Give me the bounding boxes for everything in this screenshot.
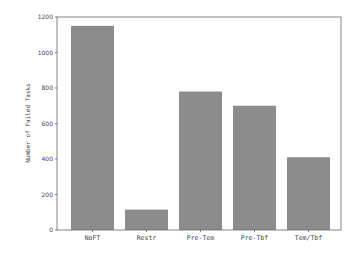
x-tick-label: Pre-Tem <box>187 234 214 242</box>
x-tick-label: Restr <box>137 234 157 242</box>
bar-pre-tem <box>179 92 222 230</box>
x-tick-label: Tem/Tbf <box>295 234 322 242</box>
bar-tem-tbf <box>287 157 330 230</box>
bar-restr <box>125 210 168 230</box>
x-tick-label: Pre-Tbf <box>241 234 268 242</box>
y-axis-label: Number of Failed Tasks <box>24 83 31 162</box>
y-tick-label: 1000 <box>38 49 53 56</box>
y-tick-label: 800 <box>42 84 54 91</box>
y-tick-label: 600 <box>42 120 54 127</box>
x-axis-ticks: NoFTRestrPre-TemPre-TbfTem/Tbf <box>85 230 323 242</box>
x-tick-label: NoFT <box>85 234 101 242</box>
bar-pre-tbf <box>233 106 276 230</box>
bars <box>71 26 330 230</box>
y-tick-label: 400 <box>42 155 54 162</box>
y-tick-label: 1200 <box>38 13 53 20</box>
y-tick-label: 200 <box>42 191 54 198</box>
chart-canvas: 020040060080010001200 NoFTRestrPre-TemPr… <box>0 0 363 253</box>
bar-noft <box>71 26 114 230</box>
y-tick-label: 0 <box>49 226 53 233</box>
y-axis-ticks: 020040060080010001200 <box>38 13 57 233</box>
